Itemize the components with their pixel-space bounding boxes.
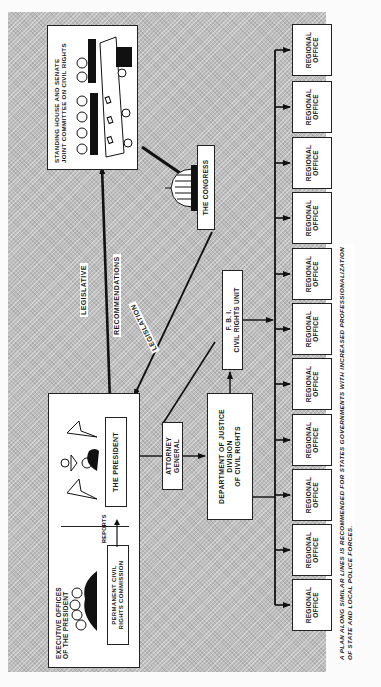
reports-label: REPORTS [101,514,107,543]
commission-members-icon [67,563,103,635]
joint-committee-box: STANDING HOUSE AND SENATE JOINT COMMITTE… [47,25,138,170]
regional-office-9: REGIONALOFFICE [292,137,332,189]
regional-office-3: REGIONALOFFICE [292,469,332,521]
regional-office-5: REGIONALOFFICE [292,358,332,410]
doj-civil-rights-division-box: DEPARTMENT OF JUSTICE DIVISION OF CIVIL … [207,393,253,520]
president-seal-flags-icon [57,417,101,507]
executive-offices-box: EXECUTIVE OFFICES OF THE PRESIDENT PERMA… [48,393,140,668]
org-chart-diagram: EXECUTIVE OFFICES OF THE PRESIDENT PERMA… [0,0,381,687]
regional-office-4: REGIONALOFFICE [292,414,332,466]
legislative-recommendations-label: LEGISLATIVE [80,263,88,317]
the-congress-box: THE CONGRESS [197,145,215,230]
regional-office-6: REGIONALOFFICE [292,303,332,355]
regional-office-7: REGIONALOFFICE [292,248,332,300]
the-president-desk: THE PRESIDENT [105,417,127,507]
capitol-dome-icon [163,159,199,217]
regional-office-2: REGIONALOFFICE [292,524,332,576]
reports-arrow [111,517,123,547]
permanent-civil-rights-commission: PERMANENT CIVIL RIGHTS COMMISSION [107,545,129,645]
regional-office-1: REGIONALOFFICE [292,579,332,631]
legislative-recommendations-label-2: RECOMMENDATIONS [113,254,121,337]
footnote-caption: A PLAN ALONG SIMILAR LINES IS RECOMMENDE… [337,244,355,663]
regional-office-11: REGIONALOFFICE [292,24,332,76]
regional-office-10: REGIONALOFFICE [292,81,332,133]
attorney-general-box: ATTORNEY GENERAL [162,422,183,490]
committee-members-icon [72,31,134,163]
regional-office-8: REGIONALOFFICE [292,192,332,244]
fbi-civil-rights-unit-box: F. B. I. CIVIL RIGHTS UNIT [222,270,243,370]
joint-committee-title: STANDING HOUSE AND SENATE JOINT COMMITTE… [53,43,67,163]
